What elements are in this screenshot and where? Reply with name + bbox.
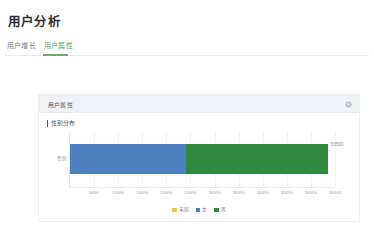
bar-segment-女[interactable] [70,144,186,174]
legend-swatch-icon [196,208,201,213]
chart-subtitle: 性别分布 [51,119,76,128]
subtitle-accent-bar [47,120,48,127]
legend-swatch-icon [214,208,219,213]
x-tick-label: 15000 [136,190,148,195]
tab-user-attributes[interactable]: 用户属性 [44,37,73,55]
legend-label: 男 [221,207,226,213]
tab-bar: 用户增长 用户属性 [0,37,374,56]
legend-label: 未知 [179,207,189,213]
x-tick-label: 45000 [281,190,293,195]
bar-segment-男[interactable] [186,144,328,174]
legend-item-男[interactable]: 男 [214,207,226,213]
x-tick-label: 50000 [305,190,317,195]
x-tick-label: 20000 [160,190,172,195]
x-tick-label: 10000 [112,190,124,195]
legend-label: 女 [202,207,207,213]
user-analysis-page: 用户分析 用户增长 用户属性 用户属性 [0,0,374,239]
tab-user-growth[interactable]: 用户增长 [7,37,36,55]
page-title: 用户分析 [8,11,61,30]
content-area: 用户属性 性别分布 性别 [0,56,374,239]
legend-item-女[interactable]: 女 [196,207,208,213]
card-header: 用户属性 [39,95,359,113]
legend-swatch-icon [172,208,177,213]
x-tick-label: 5000 [89,190,99,195]
x-tick-label: 25000 [184,190,196,195]
gridline [335,131,336,187]
user-attributes-card: 用户属性 性别分布 性别 [38,94,360,222]
x-tick-label: 40000 [257,190,269,195]
chart-legend: 未知女男 [39,205,359,215]
card-header-title: 用户属性 [48,100,73,109]
y-axis-category-label: 性别 [46,155,67,161]
legend-item-未知[interactable]: 未知 [172,207,189,213]
x-tick-label: 35000 [233,190,245,195]
gender-distribution-chart: 性别分布 性别 53500 50001000015000200002500030… [39,113,359,221]
x-axis-line [69,187,335,188]
x-tick-label: 55000 [329,190,341,195]
gear-icon[interactable] [345,101,352,108]
bar-total-label: 53500 [331,142,344,147]
x-tick-label: 30000 [208,190,220,195]
plot-area: 性别 53500 5000100001500020000250003000035… [39,131,359,201]
